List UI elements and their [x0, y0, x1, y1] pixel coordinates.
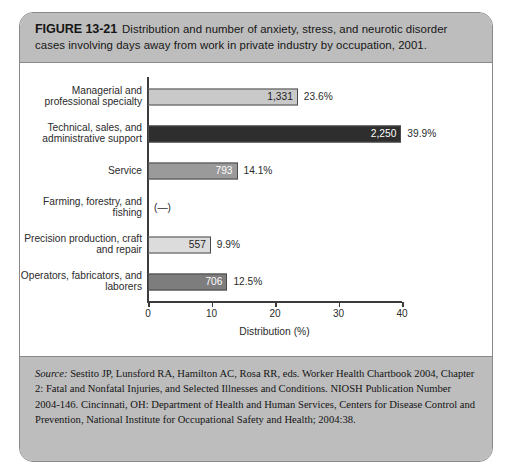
bar-percent-label: 12.5%	[233, 276, 262, 287]
category-label: Precision production, craft and repair	[20, 233, 142, 256]
source-body: Sestito JP, Lunsford RA, Hamilton AC, Ro…	[35, 368, 475, 425]
bar: 706	[148, 273, 227, 290]
bar: 793	[148, 162, 238, 179]
category-label: Technical, sales, and administrative sup…	[20, 122, 142, 145]
figure-number: FIGURE 13-21	[35, 22, 117, 36]
bar-percent-label: 23.6%	[304, 91, 333, 102]
x-axis-tick	[402, 302, 404, 307]
x-axis-tick	[275, 302, 277, 307]
bar-row: Service79314.1%	[20, 152, 492, 189]
chart-plot-area: Managerial and professional specialty1,3…	[20, 63, 492, 356]
x-axis-title: Distribution (%)	[147, 326, 402, 337]
source-label: Source:	[35, 368, 68, 379]
bar-value-label: 557	[189, 239, 206, 250]
bar-track: 2,25039.9%	[148, 125, 488, 142]
no-data-marker: (—)	[154, 202, 171, 213]
bar-percent-label: 14.1%	[244, 165, 273, 176]
bar-percent-label: 39.9%	[407, 128, 436, 139]
x-axis-tick	[212, 302, 214, 307]
bar-row: Precision production, craft and repair55…	[20, 226, 492, 263]
category-label: Service	[20, 165, 142, 177]
bar: 2,250	[148, 125, 401, 142]
bar-track: 70612.5%	[148, 273, 488, 290]
bar-value-label: 793	[216, 165, 233, 176]
x-axis-tick-label: 30	[333, 308, 344, 319]
figure-source-band: Source: Sestito JP, Lunsford RA, Hamilto…	[20, 356, 492, 462]
x-axis-tick	[148, 302, 150, 307]
figure-caption: FIGURE 13-21Distribution and number of a…	[35, 22, 478, 53]
bar-track: 5579.9%	[148, 236, 488, 253]
x-axis-tick	[339, 302, 341, 307]
x-axis-tick-label: 40	[396, 308, 407, 319]
figure-container: FIGURE 13-21Distribution and number of a…	[19, 12, 493, 462]
x-axis-tick-label: 10	[206, 308, 217, 319]
bar-value-label: 706	[205, 276, 222, 287]
bar: 1,331	[148, 88, 298, 105]
source-citation: Source: Sestito JP, Lunsford RA, Hamilto…	[35, 366, 476, 428]
bar-track: 1,33123.6%	[148, 88, 488, 105]
bar-track: (—)	[148, 199, 488, 216]
bar-percent-label: 9.9%	[217, 239, 240, 250]
x-axis-tick-label: 0	[145, 308, 151, 319]
bar-track: 79314.1%	[148, 162, 488, 179]
bar-row: Farming, forestry, and fishing(—)	[20, 189, 492, 226]
bar-value-label: 2,250	[371, 128, 397, 139]
chart-canvas: Managerial and professional specialty1,3…	[20, 63, 492, 356]
category-label: Farming, forestry, and fishing	[20, 196, 142, 219]
bar-row: Technical, sales, and administrative sup…	[20, 115, 492, 152]
bar-row: Operators, fabricators, and laborers7061…	[20, 263, 492, 300]
figure-header: FIGURE 13-21Distribution and number of a…	[20, 13, 492, 63]
bar-value-label: 1,331	[267, 91, 293, 102]
bar: 557	[148, 236, 211, 253]
bar-row: Managerial and professional specialty1,3…	[20, 78, 492, 115]
x-axis-tick-label: 20	[269, 308, 280, 319]
category-label: Managerial and professional specialty	[20, 85, 142, 108]
category-label: Operators, fabricators, and laborers	[20, 270, 142, 293]
